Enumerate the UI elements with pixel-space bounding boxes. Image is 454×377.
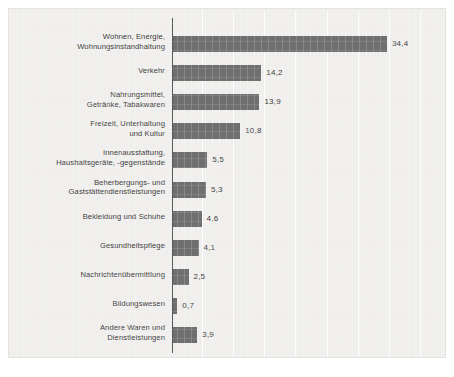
bar [173, 65, 261, 81]
category-label-line1: Wohnen, Energie, [5, 32, 165, 42]
bar [173, 240, 199, 256]
category-label-line2: und Kultur [5, 129, 165, 139]
bar-row: Nachrichtenübermittlung2,5 [9, 266, 445, 292]
bar-row: Wohnen, Energie,Wohnungsinstandhaltung34… [9, 33, 445, 59]
bar-row: Bekleidung und Schuhe4,6 [9, 208, 445, 234]
bar [173, 269, 189, 285]
bar [173, 123, 240, 139]
bar-row: Bildungswesen0,7 [9, 295, 445, 321]
category-label: Bekleidung und Schuhe [5, 212, 165, 222]
bar-value-label: 5,5 [212, 155, 224, 164]
category-label: Beherbergungs- undGaststättendienstleist… [5, 178, 165, 197]
category-label: Verkehr [5, 66, 165, 76]
category-label: Nahrungsmittel,Getränke, Tabakwaren [5, 90, 165, 109]
bar-value-label: 14,2 [266, 68, 282, 77]
bar [173, 298, 177, 314]
category-label-line1: Gesundheitspflege [5, 241, 165, 251]
category-label-line2: Dienstleistungen [5, 333, 165, 343]
bar-row: Gesundheitspflege4,1 [9, 237, 445, 263]
bar [173, 94, 259, 110]
bar [173, 36, 387, 52]
bar [173, 327, 197, 343]
bar-value-label: 3,9 [202, 330, 214, 339]
bar-value-label: 2,5 [194, 272, 206, 281]
bar-row: Beherbergungs- undGaststättendienstleist… [9, 179, 445, 205]
category-label-line1: Andere Waren und [5, 323, 165, 333]
category-label: Nachrichtenübermittlung [5, 270, 165, 280]
bar-row: Innenausstattung,Haushaltsgeräte, -gegen… [9, 149, 445, 175]
bar-value-label: 4,1 [204, 243, 216, 252]
category-label-line2: Getränke, Tabakwaren [5, 100, 165, 110]
category-label-line1: Bildungswesen [5, 299, 165, 309]
category-label-line1: Nahrungsmittel, [5, 90, 165, 100]
bar-row: Nahrungsmittel,Getränke, Tabakwaren13,9 [9, 91, 445, 117]
bar-row: Freizeit, Unterhaltungund Kultur10,8 [9, 120, 445, 146]
category-label-line1: Beherbergungs- und [5, 178, 165, 188]
category-label-line1: Freizeit, Unterhaltung [5, 119, 165, 129]
category-label: Bildungswesen [5, 299, 165, 309]
bar-chart-panel: Wohnen, Energie,Wohnungsinstandhaltung34… [8, 8, 446, 358]
bar-value-label: 13,9 [264, 97, 280, 106]
bar-value-label: 5,3 [211, 185, 223, 194]
bar-value-label: 0,7 [182, 301, 194, 310]
bar [173, 211, 202, 227]
bar-value-label: 34,4 [392, 39, 408, 48]
category-label: Freizeit, Unterhaltungund Kultur [5, 119, 165, 138]
category-label: Wohnen, Energie,Wohnungsinstandhaltung [5, 32, 165, 51]
category-label: Innenausstattung,Haushaltsgeräte, -gegen… [5, 148, 165, 167]
category-label: Andere Waren undDienstleistungen [5, 323, 165, 342]
category-label-line1: Bekleidung und Schuhe [5, 212, 165, 222]
bar-value-label: 4,6 [207, 214, 219, 223]
category-label-line2: Haushaltsgeräte, -gegenstände [5, 158, 165, 168]
bar [173, 182, 206, 198]
category-label-line2: Wohnungsinstandhaltung [5, 42, 165, 52]
bar-value-label: 10,8 [245, 126, 261, 135]
category-label-line1: Verkehr [5, 66, 165, 76]
category-label-line2: Gaststättendienstleistungen [5, 187, 165, 197]
bar [173, 152, 207, 168]
category-label-line1: Innenausstattung, [5, 148, 165, 158]
category-label-line1: Nachrichtenübermittlung [5, 270, 165, 280]
bar-row: Andere Waren undDienstleistungen3,9 [9, 324, 445, 350]
bar-row: Verkehr14,2 [9, 62, 445, 88]
category-label: Gesundheitspflege [5, 241, 165, 251]
screenshot-root: Wohnen, Energie,Wohnungsinstandhaltung34… [0, 0, 454, 377]
